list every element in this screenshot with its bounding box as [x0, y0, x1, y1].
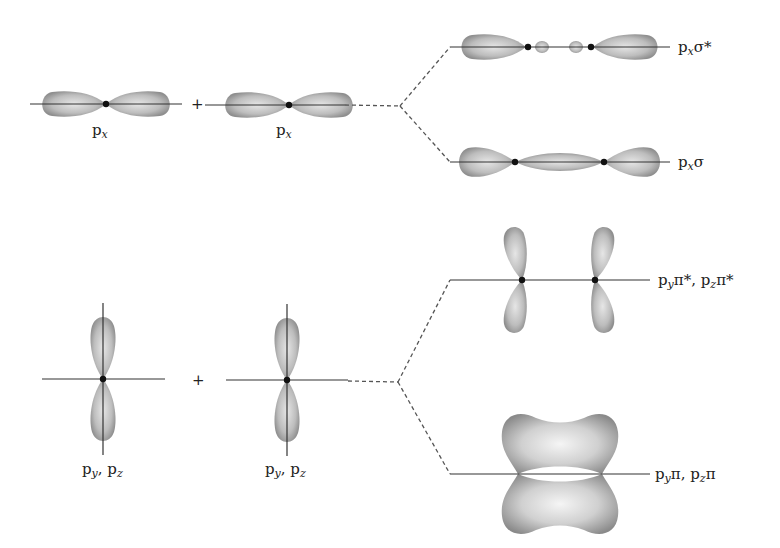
lobe [591, 280, 614, 333]
nucleus [100, 376, 106, 382]
nucleus [588, 44, 594, 50]
correlation-line [398, 382, 450, 474]
px-orbital-left [30, 91, 182, 116]
nucleus [525, 44, 531, 50]
pi-star-orbital [450, 227, 650, 333]
nucleus [519, 277, 525, 283]
sigma-star-orbital [450, 34, 670, 59]
nucleus [601, 159, 607, 165]
nucleus [512, 159, 518, 165]
pypz-orbital-right [226, 304, 348, 456]
lobe [504, 227, 527, 280]
correlation-line [400, 47, 450, 106]
sigma-orbital [450, 147, 670, 177]
nucleus [103, 101, 109, 107]
correlation-line [398, 280, 450, 382]
correlation-line [348, 381, 398, 382]
plus-sign: + [192, 371, 205, 389]
nucleus [284, 377, 290, 383]
plus-sign: + [191, 95, 204, 113]
px-orbital-right [205, 92, 353, 117]
pi-label: pyπ, pzπ [655, 465, 716, 485]
pi-orbital [450, 414, 650, 534]
pypz-label-right: py, pz [265, 460, 306, 480]
nucleus [592, 277, 598, 283]
pypz-orbital-left [42, 303, 165, 455]
lobe [591, 227, 614, 280]
correlation-line [345, 105, 400, 106]
bonding-lobe-lower [502, 474, 619, 534]
px-label-left: px [92, 121, 109, 141]
pypz-label-left: py, pz [82, 460, 123, 480]
nucleus [286, 102, 292, 108]
px-label-right: px [276, 121, 293, 141]
bonding-lobe-upper [502, 414, 619, 474]
mo-diagram: + px px pxσ* pxσ + [0, 0, 780, 548]
sigma-label: pxσ [678, 153, 704, 173]
correlation-line [400, 106, 450, 162]
sigma-star-label: pxσ* [678, 38, 712, 58]
lobe [504, 280, 527, 333]
pi-star-label: pyπ*, pzπ* [658, 271, 734, 291]
